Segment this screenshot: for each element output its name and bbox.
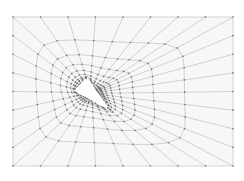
mesh-node bbox=[75, 107, 77, 109]
mesh-node bbox=[69, 96, 71, 98]
mesh-node bbox=[88, 101, 90, 103]
mesh-node bbox=[122, 165, 124, 167]
mesh-node bbox=[57, 58, 59, 60]
mesh-node bbox=[232, 165, 234, 167]
mesh-node bbox=[128, 73, 130, 75]
mesh-node bbox=[153, 92, 155, 94]
mesh-node bbox=[60, 84, 62, 86]
mesh-node bbox=[50, 82, 52, 84]
mesh-node bbox=[121, 130, 123, 132]
mesh-node bbox=[67, 16, 69, 18]
mesh-node bbox=[168, 142, 170, 144]
mesh-node bbox=[78, 80, 80, 82]
mesh-node bbox=[110, 103, 112, 105]
mesh-node bbox=[107, 107, 109, 109]
mesh-node bbox=[110, 87, 112, 89]
mesh-node bbox=[76, 70, 78, 72]
mesh-node bbox=[90, 78, 92, 80]
mesh-node bbox=[76, 95, 78, 97]
mesh-node bbox=[83, 70, 85, 72]
mesh-node bbox=[97, 83, 99, 85]
mesh-node bbox=[177, 16, 179, 18]
mesh-node bbox=[12, 72, 14, 74]
mesh-node bbox=[107, 101, 109, 103]
mesh-node bbox=[150, 16, 152, 18]
mesh-node bbox=[12, 53, 14, 55]
mesh-node bbox=[73, 104, 75, 106]
mesh-node bbox=[104, 89, 106, 91]
mesh-node bbox=[12, 128, 14, 130]
mesh-node bbox=[105, 90, 107, 92]
mesh-node bbox=[78, 95, 80, 97]
mesh-node bbox=[111, 41, 113, 43]
mesh-node bbox=[152, 84, 154, 86]
mesh-node bbox=[122, 16, 124, 18]
mesh-node bbox=[92, 103, 94, 105]
mesh-node bbox=[134, 130, 136, 132]
mesh-node bbox=[85, 78, 87, 80]
mesh-node bbox=[91, 100, 93, 102]
mesh-node bbox=[154, 108, 156, 110]
mesh-node bbox=[92, 104, 94, 106]
mesh-node bbox=[100, 113, 102, 115]
mesh-node bbox=[106, 92, 108, 94]
mesh-node bbox=[104, 109, 106, 111]
mesh-node bbox=[111, 106, 113, 108]
mesh-node bbox=[116, 79, 118, 81]
mesh-node bbox=[113, 78, 115, 80]
mesh-node bbox=[95, 103, 97, 105]
mesh-node bbox=[105, 57, 107, 59]
mesh-node bbox=[100, 67, 102, 69]
mesh-node bbox=[103, 81, 105, 83]
mesh-node bbox=[109, 109, 111, 111]
mesh-node bbox=[79, 103, 81, 105]
mesh-node bbox=[69, 113, 71, 115]
mesh-node bbox=[92, 111, 94, 113]
mesh-node bbox=[102, 92, 104, 94]
mesh-node bbox=[72, 79, 74, 81]
mesh-node bbox=[128, 59, 130, 61]
mesh-node bbox=[114, 102, 116, 104]
mesh-node bbox=[184, 91, 186, 93]
mesh-node bbox=[78, 84, 80, 86]
mesh-node bbox=[184, 116, 186, 118]
mesh-node bbox=[77, 79, 79, 81]
mesh-node bbox=[92, 117, 94, 119]
mesh-node bbox=[184, 128, 186, 130]
mesh-node bbox=[150, 165, 152, 167]
mesh-node bbox=[164, 43, 166, 45]
mesh-node bbox=[82, 101, 84, 103]
mesh-node bbox=[77, 101, 79, 103]
mesh-node bbox=[107, 97, 109, 99]
mesh-node bbox=[153, 100, 155, 102]
mesh-node bbox=[83, 96, 85, 98]
mesh-node bbox=[108, 105, 110, 107]
mesh-node bbox=[182, 56, 184, 58]
mesh-node bbox=[91, 65, 93, 67]
mesh-node bbox=[232, 91, 234, 93]
mesh-node bbox=[70, 87, 72, 89]
mesh-node bbox=[75, 92, 77, 94]
mesh-node bbox=[183, 67, 185, 69]
mesh-node bbox=[80, 97, 82, 99]
mesh-node bbox=[97, 105, 99, 107]
mesh-node bbox=[66, 55, 68, 57]
mesh-node bbox=[62, 72, 64, 74]
mesh-node bbox=[106, 82, 108, 84]
mesh-node bbox=[103, 94, 105, 96]
mesh-node bbox=[56, 116, 58, 118]
mesh-node bbox=[66, 86, 68, 88]
mesh-node bbox=[122, 105, 124, 107]
mesh-node bbox=[109, 115, 111, 117]
mesh-node bbox=[97, 106, 99, 108]
mesh-node bbox=[92, 107, 94, 109]
mesh-node bbox=[12, 35, 14, 37]
mesh-node bbox=[75, 141, 77, 143]
mesh-node bbox=[80, 77, 82, 79]
mesh-node bbox=[52, 100, 54, 102]
mesh-node bbox=[78, 97, 80, 99]
mesh-node bbox=[121, 100, 123, 102]
mesh-node bbox=[151, 123, 153, 125]
mesh-node bbox=[121, 113, 123, 115]
mesh-node bbox=[119, 88, 121, 90]
